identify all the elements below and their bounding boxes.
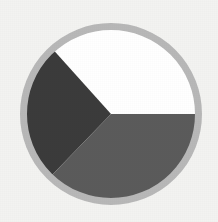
pie-chart-figure [0,0,218,222]
pie-chart-svg [0,0,218,222]
